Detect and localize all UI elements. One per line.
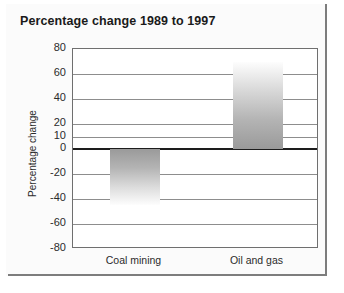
x-axis-tick-label: Oil and gas: [197, 254, 317, 266]
gridline: [73, 224, 317, 225]
chart-title: Percentage change 1989 to 1997: [20, 14, 215, 28]
y-axis-tick-label: -80: [20, 241, 66, 253]
y-axis-tick-label: -40: [20, 191, 66, 203]
figure-frame: Percentage change 1989 to 1997 Percentag…: [0, 0, 344, 293]
y-axis-tick-label: 80: [20, 41, 66, 53]
y-axis-tick-label: -60: [20, 216, 66, 228]
y-axis-tick-label: 40: [20, 91, 66, 103]
bar-coal-mining: [110, 149, 160, 205]
x-axis-tick-label: Coal mining: [74, 254, 194, 266]
y-axis-tick-label: 20: [20, 116, 66, 128]
frame-edge-right: [325, 4, 327, 276]
plot-area: [72, 48, 318, 248]
y-axis-tick-label: 0: [20, 141, 66, 153]
y-axis-tick-label: 60: [20, 66, 66, 78]
frame-edge-bottom: [8, 274, 327, 276]
y-axis-tick-label: -20: [20, 166, 66, 178]
bar-oil-and-gas: [233, 62, 283, 150]
y-axis-tick-label: 10: [20, 129, 66, 141]
